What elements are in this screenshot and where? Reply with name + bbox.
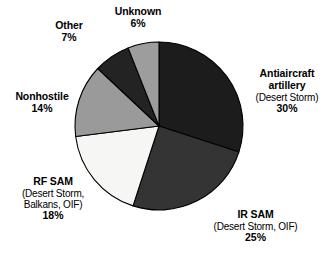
pie-label-unknown: Unknown 6%	[95, 6, 181, 30]
pie-label-antiaircraft-artillery-line1: Antiaircraft	[243, 68, 331, 80]
pie-label-other: Other 7%	[43, 20, 95, 44]
pie-label-unknown-percent: 6%	[95, 18, 181, 30]
pie-label-nonhostile-line1: Nonhostile	[0, 91, 84, 103]
pie-label-antiaircraft-artillery-annotation: (Desert Storm)	[243, 92, 331, 103]
pie-label-other-line1: Other	[43, 20, 95, 32]
pie-label-other-percent: 7%	[43, 32, 95, 44]
pie-label-antiaircraft-artillery: Antiaircraft artillery (Desert Storm) 30…	[243, 68, 331, 114]
pie-label-ir-sam-line1: IR SAM	[180, 209, 331, 221]
pie-label-rf-sam-annotation-line1: (Desert Storm,	[0, 188, 106, 199]
pie-label-unknown-line1: Unknown	[95, 6, 181, 18]
pie-label-rf-sam-percent: 18%	[0, 210, 106, 222]
pie-label-nonhostile-percent: 14%	[0, 103, 84, 115]
pie-label-ir-sam-percent: 25%	[180, 232, 331, 244]
pie-label-rf-sam: RF SAM (Desert Storm, Balkans, OIF) 18%	[0, 176, 106, 222]
pie-label-antiaircraft-artillery-line2: artillery	[243, 80, 331, 92]
pie-label-rf-sam-line1: RF SAM	[0, 176, 106, 188]
pie-label-antiaircraft-artillery-percent: 30%	[243, 103, 331, 115]
pie-label-ir-sam: IR SAM (Desert Storm, OIF) 25%	[180, 209, 331, 244]
pie-label-nonhostile: Nonhostile 14%	[0, 91, 84, 115]
pie-chart: Antiaircraft artillery (Desert Storm) 30…	[0, 0, 331, 262]
